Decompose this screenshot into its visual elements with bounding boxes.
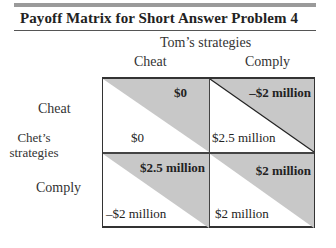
title-underline xyxy=(14,30,316,31)
tom-payoff: $2 million xyxy=(256,163,311,179)
row-header-cheat: Cheat xyxy=(38,101,71,117)
chet-payoff: $0 xyxy=(131,130,144,146)
row-player-label: Chet’s strategies xyxy=(4,130,64,160)
cell-cheat-cheat: $0 $0 xyxy=(103,79,209,152)
row-header-comply: Comply xyxy=(36,180,81,196)
chet-payoff: $2 million xyxy=(215,206,269,222)
row-player-label-line1: Chet’s xyxy=(4,130,64,145)
cell-comply-cheat: $2.5 million –$2 million xyxy=(103,154,209,228)
payoff-grid: $0 $0 –$2 million $2.5 million $2.5 mill… xyxy=(102,77,315,228)
column-header-cheat: Cheat xyxy=(134,54,167,70)
top-rule xyxy=(14,3,316,7)
row-player-label-line2: strategies xyxy=(4,145,64,160)
column-header-comply: Comply xyxy=(245,54,290,70)
page-title: Payoff Matrix for Short Answer Problem 4 xyxy=(20,10,298,27)
diagonal-shade xyxy=(103,79,209,152)
column-player-label: Tom’s strategies xyxy=(160,35,251,51)
cell-comply-comply: $2 million $2 million xyxy=(210,154,314,228)
tom-payoff: –$2 million xyxy=(249,85,311,101)
tom-payoff: $0 xyxy=(174,85,187,101)
cell-cheat-comply: –$2 million $2.5 million xyxy=(210,79,314,152)
tom-payoff: $2.5 million xyxy=(140,160,205,176)
horizontal-divider xyxy=(103,152,314,154)
chet-payoff: $2.5 million xyxy=(212,130,276,146)
chet-payoff: –$2 million xyxy=(106,206,166,222)
